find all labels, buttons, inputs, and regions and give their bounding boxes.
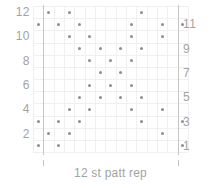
pattern-repeat-caption: 12 st patt rep (33, 160, 188, 182)
grid-line-horizontal (33, 140, 188, 141)
pattern-symbol-dot (68, 108, 71, 111)
pattern-symbol-dot (130, 35, 133, 38)
row-label-right-7: 7 (183, 67, 209, 79)
row-label-left-2: 2 (4, 128, 30, 140)
row-label-left-12: 12 (4, 6, 30, 18)
pattern-symbol-dot (140, 96, 143, 99)
pattern-symbol-dot (99, 71, 102, 74)
grid-line-horizontal (33, 116, 188, 117)
pattern-symbol-dot (99, 96, 102, 99)
pattern-symbol-dot (161, 132, 164, 135)
grid-line-horizontal (33, 67, 188, 68)
pattern-symbol-dot (130, 23, 133, 26)
grid-line-horizontal (33, 30, 188, 31)
chart-grid (33, 6, 188, 152)
pattern-symbol-dot (119, 71, 122, 74)
pattern-symbol-dot (119, 96, 122, 99)
pattern-symbol-dot (161, 35, 164, 38)
pattern-symbol-dot (88, 84, 91, 87)
row-label-right-9: 9 (183, 43, 209, 55)
pattern-symbol-dot (140, 11, 143, 14)
pattern-symbol-dot (88, 35, 91, 38)
pattern-symbol-dot (140, 47, 143, 50)
pattern-symbol-dot (78, 47, 81, 50)
pattern-symbol-dot (130, 59, 133, 62)
pattern-symbol-dot (47, 132, 50, 135)
row-label-right-3: 3 (183, 116, 209, 128)
pattern-symbol-dot (47, 11, 50, 14)
pattern-symbol-dot (78, 23, 81, 26)
pattern-symbol-dot (68, 11, 71, 14)
grid-line-horizontal (33, 152, 188, 153)
pattern-symbol-dot (37, 120, 40, 123)
pattern-symbol-dot (88, 59, 91, 62)
right-row-number-axis: 1197531 (183, 6, 209, 152)
repeat-label: 12 st patt rep (33, 166, 188, 180)
row-label-left-10: 10 (4, 30, 30, 42)
row-label-right-5: 5 (183, 91, 209, 103)
grid-line-horizontal (33, 91, 188, 92)
pattern-symbol-dot (109, 84, 112, 87)
pattern-symbol-dot (68, 35, 71, 38)
pattern-symbol-dot (161, 108, 164, 111)
pattern-symbol-dot (130, 108, 133, 111)
pattern-symbol-dot (78, 96, 81, 99)
grid-line-horizontal (33, 103, 188, 104)
row-label-left-4: 4 (4, 103, 30, 115)
pattern-symbol-dot (119, 47, 122, 50)
repeat-boundary-right (178, 5, 179, 155)
grid-line-horizontal (33, 55, 188, 56)
pattern-symbol-dot (99, 47, 102, 50)
pattern-symbol-dot (88, 108, 91, 111)
left-row-number-axis: 12108642 (4, 6, 30, 152)
grid-line-horizontal (33, 128, 188, 129)
repeat-boundary-left (43, 5, 44, 155)
pattern-symbol-dot (37, 144, 40, 147)
repeat-label-text: 12 st patt rep (71, 166, 150, 180)
pattern-symbol-dot (140, 120, 143, 123)
pattern-symbol-dot (68, 132, 71, 135)
pattern-symbol-dot (109, 59, 112, 62)
pattern-symbol-dot (130, 84, 133, 87)
grid-line-horizontal (33, 18, 188, 19)
grid-line-horizontal (33, 79, 188, 80)
pattern-symbol-dot (57, 144, 60, 147)
grid-line-horizontal (33, 43, 188, 44)
pattern-symbol-dot (78, 120, 81, 123)
row-label-right-1: 1 (183, 140, 209, 152)
pattern-symbol-dot (57, 23, 60, 26)
pattern-symbol-dot (37, 23, 40, 26)
knitting-pattern-chart: 12108642 1197531 12 st patt rep (0, 0, 213, 188)
row-label-left-8: 8 (4, 55, 30, 67)
pattern-symbol-dot (161, 23, 164, 26)
row-label-left-6: 6 (4, 79, 30, 91)
grid-line-horizontal (33, 6, 188, 7)
row-label-right-11: 11 (183, 18, 209, 30)
pattern-symbol-dot (57, 120, 60, 123)
